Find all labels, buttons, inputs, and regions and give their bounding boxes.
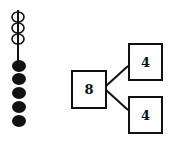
bond-connectors: [106, 66, 128, 110]
part-value-top: 4: [141, 55, 150, 70]
whole-value: 8: [84, 82, 93, 97]
filled-bead-icon: [12, 87, 26, 99]
filled-bead-icon: [12, 101, 26, 113]
part-box-bottom: 4: [128, 96, 163, 134]
part-box-top: 4: [128, 43, 163, 81]
whole-box: 8: [71, 70, 107, 109]
part-value-bottom: 4: [141, 108, 150, 123]
filled-bead-icon: [12, 73, 26, 85]
filled-bead-icon: [12, 60, 26, 72]
filled-beads: [12, 60, 26, 127]
filled-bead-icon: [12, 115, 26, 127]
